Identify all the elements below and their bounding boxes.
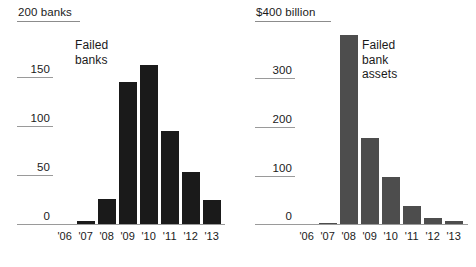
bar-series-failed-bank-assets bbox=[298, 30, 466, 224]
x-tick-label: '07 bbox=[316, 230, 340, 242]
axis-caption-label: $400 billion bbox=[256, 6, 315, 18]
bar bbox=[340, 35, 358, 224]
axis-caption-rule bbox=[17, 21, 80, 22]
bar bbox=[424, 218, 442, 224]
bar bbox=[319, 223, 337, 225]
y-tick-label: 50 bbox=[18, 161, 50, 173]
x-axis-baseline bbox=[255, 224, 468, 225]
bar bbox=[140, 65, 158, 224]
x-tick-label: '12 bbox=[179, 230, 203, 242]
x-tick-label: '12 bbox=[421, 230, 445, 242]
bar bbox=[382, 177, 400, 224]
bar bbox=[403, 206, 421, 224]
x-tick-label: '10 bbox=[137, 230, 161, 242]
x-tick-label: '07 bbox=[74, 230, 98, 242]
x-tick-label: '08 bbox=[95, 230, 119, 242]
y-tick-label: 100 bbox=[256, 162, 292, 174]
y-tick-label: 300 bbox=[256, 64, 292, 76]
y-gridline bbox=[255, 176, 295, 177]
x-tick-label: '10 bbox=[379, 230, 403, 242]
chart-figure: 200 banks Failed banks 150 100 50 0 '06'… bbox=[0, 0, 476, 267]
x-tick-label: '06 bbox=[53, 230, 77, 242]
axis-caption-label: 200 banks bbox=[18, 6, 72, 18]
bar bbox=[77, 221, 95, 224]
y-gridline bbox=[255, 127, 295, 128]
bar-series-failed-banks bbox=[56, 30, 224, 224]
bar bbox=[445, 221, 463, 224]
chart-panel-failed-bank-assets: $400 billion Failed bank assets 300 200 … bbox=[238, 0, 476, 267]
y-tick-label: 0 bbox=[18, 210, 50, 222]
x-axis-baseline bbox=[17, 224, 225, 225]
y-gridline bbox=[17, 77, 53, 78]
x-tick-label: '13 bbox=[442, 230, 466, 242]
y-tick-label: 0 bbox=[256, 210, 292, 222]
x-tick-label: '09 bbox=[116, 230, 140, 242]
y-gridline bbox=[17, 175, 53, 176]
x-tick-label: '06 bbox=[295, 230, 319, 242]
bar bbox=[182, 172, 200, 224]
x-tick-label: '09 bbox=[358, 230, 382, 242]
bar bbox=[203, 200, 221, 224]
bar bbox=[98, 199, 116, 224]
bar bbox=[161, 131, 179, 224]
x-tick-label: '13 bbox=[200, 230, 224, 242]
y-tick-label: 150 bbox=[18, 63, 50, 75]
bar bbox=[119, 82, 137, 224]
axis-caption-rule bbox=[255, 21, 331, 22]
y-tick-label: 200 bbox=[256, 113, 292, 125]
x-tick-label: '11 bbox=[158, 230, 182, 242]
y-tick-label: 100 bbox=[18, 112, 50, 124]
x-tick-label: '08 bbox=[337, 230, 361, 242]
bar bbox=[361, 138, 379, 224]
y-gridline bbox=[17, 126, 53, 127]
x-tick-label: '11 bbox=[400, 230, 424, 242]
chart-panel-failed-banks: 200 banks Failed banks 150 100 50 0 '06'… bbox=[0, 0, 238, 267]
y-gridline bbox=[255, 78, 295, 79]
